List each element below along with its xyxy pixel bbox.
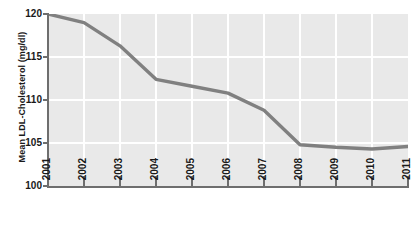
x-tick-label-2010: 2010 bbox=[365, 158, 376, 192]
x-tick-label-2006: 2006 bbox=[221, 158, 232, 192]
x-tick-label-2007: 2007 bbox=[257, 158, 268, 192]
series-line-mean-ldl-cholesterol bbox=[48, 14, 408, 149]
x-tick-label-2009: 2009 bbox=[329, 158, 340, 192]
y-tick-label-110: 110 bbox=[16, 95, 42, 105]
y-tick-label-120: 120 bbox=[16, 9, 42, 19]
x-tick-label-2004: 2004 bbox=[149, 158, 160, 192]
y-axis-tick-labels: 120 115 110 105 100 bbox=[14, 0, 42, 235]
x-tick-label-2002: 2002 bbox=[77, 158, 88, 192]
x-tick-label-2008: 2008 bbox=[293, 158, 304, 192]
y-tick-label-115: 115 bbox=[16, 52, 42, 62]
x-tick-label-2011: 2011 bbox=[401, 158, 412, 192]
y-tick-label-100: 100 bbox=[16, 181, 42, 191]
line-chart: Mean LDL-Cholesterol (mg/dl) 120 115 110… bbox=[0, 0, 416, 235]
y-tick-label-105: 105 bbox=[16, 138, 42, 148]
x-tick-label-2003: 2003 bbox=[113, 158, 124, 192]
x-tick-label-2001: 2001 bbox=[41, 158, 52, 192]
x-tick-label-2005: 2005 bbox=[185, 158, 196, 192]
